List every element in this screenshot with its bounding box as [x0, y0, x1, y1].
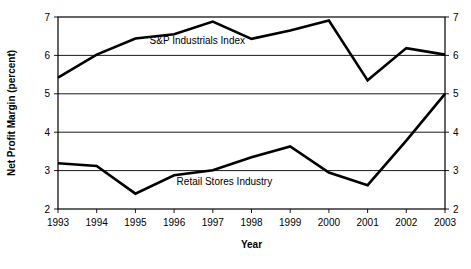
x-tick-label-2003: 2003 [434, 217, 457, 228]
y-tick-label-left-5: 5 [44, 88, 50, 99]
y-tick-label-right-3: 3 [453, 165, 459, 176]
series-annotations: S&P Industrials IndexRetail Stores Indus… [150, 35, 273, 187]
x-tick-label-1996: 1996 [163, 217, 186, 228]
x-tick-label-1997: 1997 [202, 217, 225, 228]
series-label-1: Retail Stores Industry [177, 176, 273, 187]
x-axis-title: Year [241, 239, 262, 250]
x-tick-label-2000: 2000 [318, 217, 341, 228]
gridlines [58, 55, 445, 170]
data-series [58, 20, 445, 193]
y-tick-label-left-6: 6 [44, 50, 50, 61]
series-label-0: S&P Industrials Index [150, 35, 245, 46]
y-tick-label-right-5: 5 [453, 88, 459, 99]
y-axis-title: Net Profit Margin (percent) [6, 50, 17, 176]
x-axis-tick-labels: 1993199419951996199719981999200020012002… [47, 217, 457, 228]
y-tick-label-left-4: 4 [44, 127, 50, 138]
x-tick-label-1993: 1993 [47, 217, 70, 228]
x-tick-label-2001: 2001 [356, 217, 379, 228]
x-tick-label-2002: 2002 [395, 217, 418, 228]
y-axis-right-tick-labels: 234567 [453, 12, 459, 215]
chart-container: 234567 234567 19931994199519961997199819… [0, 0, 471, 269]
y-tick-label-right-6: 6 [453, 50, 459, 61]
y-tick-label-left-2: 2 [44, 204, 50, 215]
y-tick-label-right-2: 2 [453, 204, 459, 215]
y-tick-label-left-3: 3 [44, 165, 50, 176]
y-tick-label-right-4: 4 [453, 127, 459, 138]
x-tick-label-1994: 1994 [86, 217, 109, 228]
y-axis-left-tick-labels: 234567 [44, 12, 50, 215]
line-chart: 234567 234567 19931994199519961997199819… [0, 0, 471, 269]
x-tick-label-1995: 1995 [124, 217, 147, 228]
series-line-0 [58, 20, 445, 80]
y-tick-label-left-7: 7 [44, 12, 50, 23]
y-tick-label-right-7: 7 [453, 12, 459, 23]
x-tick-label-1999: 1999 [279, 217, 302, 228]
x-tick-label-1998: 1998 [240, 217, 263, 228]
